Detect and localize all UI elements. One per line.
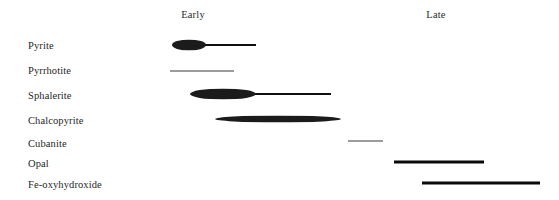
range-bar-pyrrhotite — [170, 71, 234, 72]
stage-label-late: Late — [426, 9, 445, 20]
mineral-label-fe-oxyhydroxide: Fe-oxyhydroxide — [28, 179, 102, 190]
range-bar-opal — [394, 161, 484, 164]
range-bar-cubanite — [348, 141, 383, 142]
stage-label-early: Early — [181, 9, 205, 20]
mineral-label-pyrrhotite: Pyrrhotite — [28, 65, 71, 76]
range-tail-sphalerite — [250, 93, 331, 95]
range-lens-chalcopyrite — [215, 116, 341, 123]
mineral-label-sphalerite: Sphalerite — [28, 90, 72, 101]
mineral-label-pyrite: Pyrite — [28, 40, 54, 51]
range-lens-sphalerite — [190, 89, 256, 100]
paragenesis-diagram: Early Late Pyrite Pyrrhotite Sphalerite … — [0, 0, 559, 200]
mineral-label-cubanite: Cubanite — [28, 138, 67, 149]
mineral-label-chalcopyrite: Chalcopyrite — [28, 115, 83, 126]
range-tail-pyrite — [200, 44, 256, 46]
range-lens-pyrite — [172, 40, 206, 51]
range-bar-fe-oxyhydroxide — [422, 182, 540, 185]
mineral-label-opal: Opal — [28, 158, 49, 169]
